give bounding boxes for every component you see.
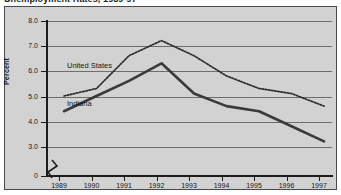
series-line-united-states [64, 41, 324, 107]
series-label-united-states: United States [67, 61, 112, 70]
series-label-indiana: Indiana [67, 99, 92, 108]
chart-title: Unemployment Rates, 1989-97 [4, 0, 137, 4]
figure-frame: Percent 8.07.06.05.04.03.00 198919901991… [4, 6, 337, 190]
chart-figure: Unemployment Rates, 1989-97 Percent 8.07… [0, 0, 341, 195]
series-line-indiana [64, 63, 324, 141]
series-curves [5, 7, 341, 195]
axis-break-icon [48, 160, 57, 178]
